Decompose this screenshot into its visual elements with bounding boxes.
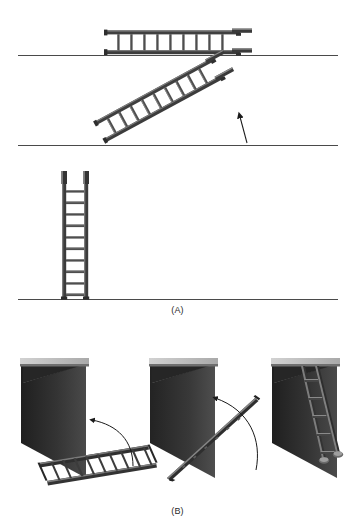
panel-a-caption: (A) bbox=[0, 305, 355, 315]
wall-cap-1 bbox=[20, 358, 89, 364]
panel-b-caption: (B) bbox=[0, 506, 355, 516]
figure-canvas bbox=[0, 0, 355, 529]
ladder-top-hooks bbox=[61, 171, 89, 184]
ladder-rungs-inclined bbox=[107, 68, 208, 133]
ladder-end-fittings-horizontal bbox=[232, 29, 252, 56]
stage-ladder-horizontal bbox=[18, 29, 338, 56]
panel-a bbox=[18, 29, 338, 300]
stage-wall-tilting-ladder bbox=[149, 358, 260, 482]
panel-b bbox=[20, 358, 343, 485]
up-arrow-icon bbox=[240, 115, 248, 143]
stage-wall-leaning-ladder bbox=[271, 358, 343, 478]
stage-ladder-vertical bbox=[18, 171, 338, 300]
ladder-raising-figure: (A) (B) bbox=[0, 0, 355, 529]
ladder-end-fittings-inclined bbox=[205, 50, 235, 83]
wall-cap-3 bbox=[271, 358, 340, 364]
wall-cap-2 bbox=[149, 358, 218, 364]
ladder-rungs-horizontal bbox=[117, 34, 224, 50]
stage-ladder-inclined bbox=[18, 50, 338, 146]
ladder-rungs-vertical bbox=[66, 190, 84, 296]
stage-wall-flat-ladder bbox=[20, 358, 158, 485]
